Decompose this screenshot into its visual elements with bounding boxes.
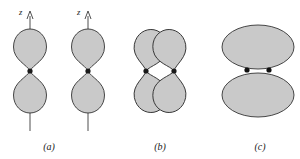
panel-c: (c) [222,25,294,153]
panel-label-c: (c) [254,141,266,153]
electron-dot-icon-left [244,67,249,72]
molecular-orbital-upper-lobe [222,25,294,69]
p-orbital-lower-lobe [72,71,105,113]
nucleus-dot-icon-b1 [143,68,148,73]
nucleus-dot-icon-a1 [27,68,32,73]
figure-canvas: z z (a) [0,0,300,159]
panel-b: (b) [130,27,190,153]
p-orbital-b2 [150,27,190,116]
nucleus-dot-icon-b2 [171,68,176,73]
molecular-orbital-lower-lobe [222,73,294,117]
z-axis-label-a2: z [76,7,81,17]
nucleus-dot-icon-a2 [85,68,90,73]
p-orbital-lower-lobe [14,71,47,113]
p-orbital-a2: z [72,7,105,131]
p-orbital-upper-lobe [14,29,47,71]
z-axis-label-a1: z [18,7,23,17]
panel-a: z z (a) [14,7,105,153]
panel-label-b: (b) [154,141,166,153]
panel-label-a: (a) [43,141,55,153]
p-orbital-upper-lobe [72,29,105,71]
electron-dot-icon-right [266,67,271,72]
orbital-overlap-figure: z z (a) [0,0,300,159]
p-orbital-a1: z [14,7,47,131]
